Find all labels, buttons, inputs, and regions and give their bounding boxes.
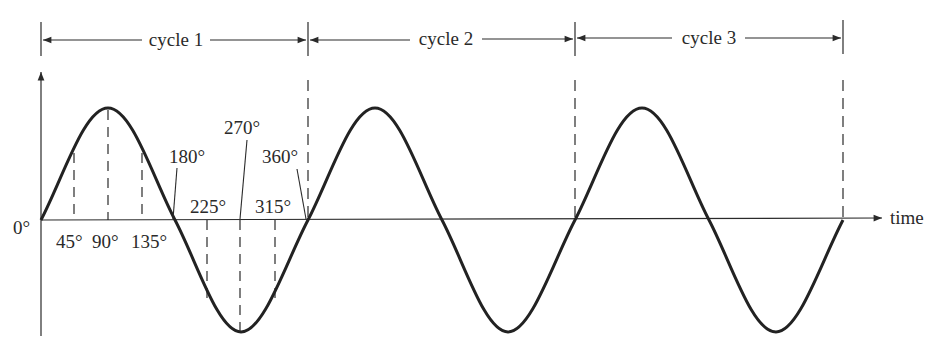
cycle-2-label: cycle 2 xyxy=(419,28,473,49)
angle-225-label: 225° xyxy=(190,196,226,217)
time-axis-label: time xyxy=(890,207,924,228)
x-axis xyxy=(41,218,882,220)
angle-270-label: 270° xyxy=(224,117,260,138)
angle-135-label: 135° xyxy=(131,231,167,252)
angle-315-label: 315° xyxy=(255,196,291,217)
angle-360-label: 360° xyxy=(262,146,298,167)
origin-label: 0° xyxy=(13,217,30,238)
cycle-1-label: cycle 1 xyxy=(149,29,203,50)
cycle-3-label: cycle 3 xyxy=(682,27,736,48)
angle-180-label: 180° xyxy=(169,146,205,167)
angle-45-label: 45° xyxy=(56,231,83,252)
angle-90-label: 90° xyxy=(92,231,119,252)
sine-wave-diagram: cycle 1 cycle 2 cycle 3 0° time 45° 90° … xyxy=(0,0,943,351)
cycle-boundaries xyxy=(308,80,843,220)
